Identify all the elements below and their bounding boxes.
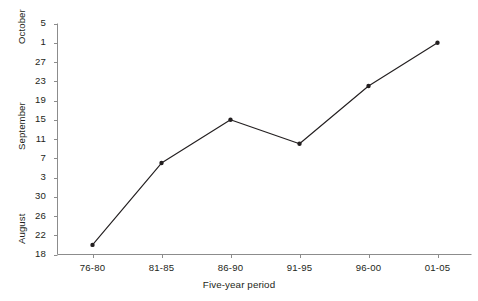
data-point-marker [228,118,232,122]
data-point-marker [90,243,94,247]
x-axis-title: Five-year period [0,279,478,290]
data-line-series [93,43,438,245]
chart-figure: OctoberSeptemberAugust 51272319151173302… [0,0,478,301]
data-point-marker [159,161,163,165]
x-tick-label: 81-85 [127,262,197,273]
x-axis-tick-marks [94,255,439,259]
x-tick-label: 86-90 [196,262,266,273]
data-point-marker [435,41,439,45]
data-point-marker [297,142,301,146]
x-tick-label: 01-05 [403,262,473,273]
axis-lines [58,24,472,255]
x-tick-label: 91-95 [265,262,335,273]
y-axis-tick-marks [54,25,58,256]
data-point-marker [366,84,370,88]
plot-area [0,0,478,301]
x-tick-label: 96-00 [334,262,404,273]
x-tick-label: 76-80 [58,262,128,273]
data-point-markers [90,41,439,248]
